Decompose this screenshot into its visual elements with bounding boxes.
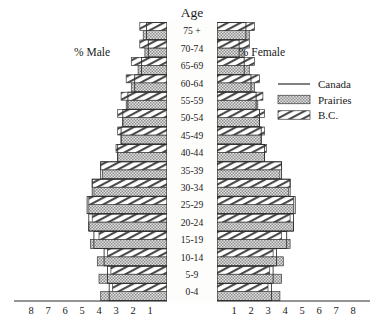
age-group-label: 20-24 — [181, 217, 204, 228]
x-tick-label: 7 — [45, 305, 50, 316]
x-tick-label: 7 — [333, 305, 338, 316]
bar-prairies-female — [217, 83, 254, 92]
bar-prairies-female — [217, 187, 288, 196]
bar-bc-male — [140, 40, 167, 48]
x-tick-label: 8 — [28, 305, 33, 316]
bar-bc-female — [217, 162, 282, 170]
x-tick-label: 6 — [316, 305, 321, 316]
bar-bc-female — [217, 214, 290, 222]
bar-bc-male — [118, 127, 167, 135]
bar-prairies-female — [217, 135, 261, 144]
bar-bc-male — [126, 75, 167, 83]
bar-prairies-male — [97, 257, 167, 266]
bar-bc-male — [131, 57, 167, 65]
bar-bc-female — [217, 249, 273, 257]
bar-prairies-female — [217, 100, 258, 109]
axis-layer: 1122334455667788 — [14, 301, 370, 316]
x-tick-label: 4 — [282, 305, 288, 316]
bar-bc-female — [217, 23, 254, 31]
bar-bc-male — [89, 197, 167, 205]
bar-bc-female — [217, 266, 270, 274]
bar-bc-female — [217, 179, 290, 187]
bar-bc-female — [217, 231, 282, 239]
x-tick-label: 3 — [113, 305, 118, 316]
bar-bc-male — [92, 179, 167, 187]
chart-legend: CanadaPrairiesB.C. — [278, 78, 352, 121]
x-tick-label: 1 — [231, 305, 236, 316]
age-label-column: 75 +70-7465-6960-6455-5950-5445-4940-443… — [167, 20, 217, 302]
chart-title: Age — [181, 5, 204, 20]
age-group-label: 5-9 — [186, 269, 199, 280]
x-tick-label: 6 — [62, 305, 67, 316]
bar-bc-male — [108, 249, 168, 257]
age-group-label: 30-34 — [181, 182, 204, 193]
x-tick-label: 8 — [350, 305, 355, 316]
population-pyramid-chart: 1122334455667788 75 +70-7465-6960-6455-5… — [0, 0, 384, 328]
bar-bc-male — [111, 266, 167, 274]
bar-bc-female — [217, 144, 266, 152]
bar-prairies-female — [217, 170, 280, 179]
bar-bc-male — [118, 110, 167, 118]
bar-prairies-male — [89, 222, 167, 231]
age-group-label: 75 + — [183, 25, 200, 36]
bar-prairies-male — [102, 170, 167, 179]
x-tick-label: 5 — [299, 305, 304, 316]
bar-prairies-male — [89, 205, 167, 214]
bar-bc-male — [140, 23, 167, 31]
age-group-label: 55-59 — [181, 95, 204, 106]
age-group-label: 70-74 — [181, 43, 204, 54]
male-axis-label: % Male — [74, 46, 110, 58]
x-tick-label: 2 — [130, 305, 135, 316]
bar-prairies-male — [99, 274, 167, 283]
legend-label: Canada — [318, 78, 351, 90]
bar-bc-male — [113, 284, 167, 292]
bar-prairies-female — [217, 222, 294, 231]
age-group-label: 0-4 — [186, 286, 199, 297]
bar-bc-female — [217, 284, 268, 292]
bar-bc-male — [116, 144, 167, 152]
age-group-label: 45-49 — [181, 130, 204, 141]
x-tick-label: 3 — [265, 305, 270, 316]
bar-prairies-female — [217, 31, 249, 40]
bar-prairies-female — [217, 118, 260, 127]
x-tick-label: 4 — [96, 305, 102, 316]
x-tick-label: 1 — [147, 305, 152, 316]
legend-swatch-prairies — [278, 95, 310, 104]
age-group-label: 60-64 — [181, 78, 204, 89]
age-group-label: 65-69 — [181, 60, 204, 71]
age-group-label: 10-14 — [181, 252, 204, 263]
age-group-label: 40-44 — [181, 147, 204, 158]
bar-prairies-male — [126, 100, 167, 109]
bar-prairies-male — [94, 187, 167, 196]
bar-prairies-female — [217, 239, 290, 248]
bar-bc-female — [217, 127, 265, 135]
bar-prairies-male — [121, 135, 167, 144]
legend-label: Prairies — [318, 94, 352, 106]
bar-prairies-male — [123, 118, 167, 127]
female-axis-label: % Female — [239, 46, 285, 58]
bar-prairies-female — [217, 292, 280, 301]
bar-prairies-male — [101, 292, 167, 301]
bar-bc-male — [101, 162, 167, 170]
bar-prairies-female — [217, 274, 282, 283]
bar-bc-female — [217, 75, 260, 83]
bar-prairies-male — [91, 239, 168, 248]
bar-bc-female — [217, 57, 254, 65]
bar-bc-female — [217, 110, 265, 118]
x-tick-label: 2 — [248, 305, 253, 316]
age-group-label: 25-29 — [181, 199, 204, 210]
age-group-label: 50-54 — [181, 112, 204, 123]
bar-prairies-female — [217, 257, 283, 266]
age-group-label: 35-39 — [181, 165, 204, 176]
bar-bc-female — [217, 197, 294, 205]
bar-prairies-male — [118, 152, 167, 161]
x-tick-label: 5 — [79, 305, 84, 316]
bar-prairies-male — [138, 65, 167, 74]
bar-prairies-male — [131, 83, 167, 92]
bar-bc-male — [99, 231, 167, 239]
bar-prairies-female — [217, 205, 294, 214]
age-group-label: 15-19 — [181, 234, 204, 245]
legend-label: B.C. — [318, 109, 338, 121]
legend-swatch-bc — [278, 111, 310, 120]
bar-prairies-female — [217, 152, 265, 161]
